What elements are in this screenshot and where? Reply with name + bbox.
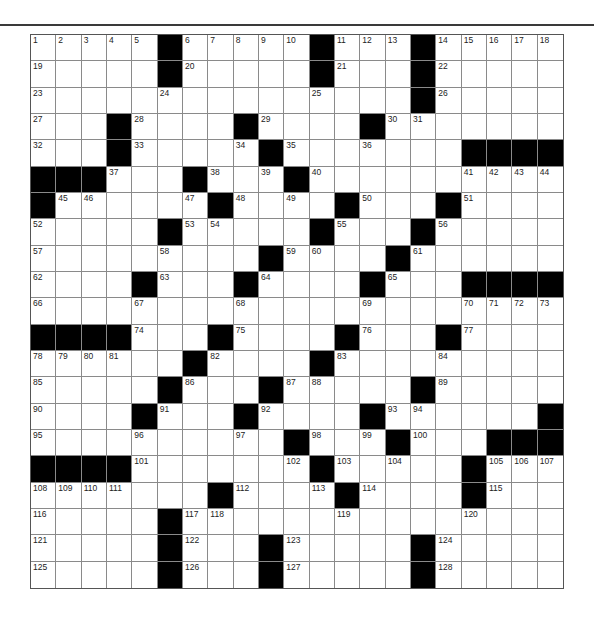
grid-cell[interactable] bbox=[183, 430, 208, 456]
grid-cell[interactable] bbox=[259, 351, 284, 377]
grid-cell[interactable] bbox=[208, 404, 233, 430]
grid-cell[interactable] bbox=[158, 114, 183, 140]
grid-cell[interactable] bbox=[512, 509, 537, 535]
grid-cell[interactable]: 10 bbox=[284, 35, 309, 61]
grid-cell[interactable] bbox=[462, 246, 487, 272]
grid-cell[interactable] bbox=[335, 377, 360, 403]
grid-cell[interactable]: 113 bbox=[310, 483, 335, 509]
grid-cell[interactable] bbox=[538, 535, 563, 561]
grid-cell[interactable] bbox=[335, 140, 360, 166]
grid-cell[interactable] bbox=[436, 114, 461, 140]
grid-cell[interactable] bbox=[386, 509, 411, 535]
grid-cell[interactable] bbox=[132, 193, 157, 219]
grid-cell[interactable] bbox=[107, 298, 132, 324]
grid-cell[interactable] bbox=[360, 88, 385, 114]
grid-cell[interactable] bbox=[360, 351, 385, 377]
grid-cell[interactable] bbox=[56, 535, 81, 561]
grid-cell[interactable] bbox=[411, 325, 436, 351]
grid-cell[interactable] bbox=[183, 456, 208, 482]
grid-cell[interactable] bbox=[487, 325, 512, 351]
grid-cell[interactable]: 21 bbox=[335, 61, 360, 87]
grid-cell[interactable] bbox=[487, 61, 512, 87]
grid-cell[interactable] bbox=[411, 483, 436, 509]
grid-cell[interactable] bbox=[56, 298, 81, 324]
grid-cell[interactable]: 37 bbox=[107, 167, 132, 193]
grid-cell[interactable] bbox=[411, 167, 436, 193]
grid-cell[interactable]: 120 bbox=[462, 509, 487, 535]
grid-cell[interactable]: 4 bbox=[107, 35, 132, 61]
grid-cell[interactable]: 127 bbox=[284, 562, 309, 588]
grid-cell[interactable] bbox=[158, 325, 183, 351]
grid-cell[interactable]: 82 bbox=[208, 351, 233, 377]
grid-cell[interactable] bbox=[462, 219, 487, 245]
grid-cell[interactable] bbox=[284, 483, 309, 509]
grid-cell[interactable]: 54 bbox=[208, 219, 233, 245]
grid-cell[interactable] bbox=[284, 61, 309, 87]
grid-cell[interactable]: 86 bbox=[183, 377, 208, 403]
grid-cell[interactable] bbox=[259, 219, 284, 245]
grid-cell[interactable] bbox=[132, 377, 157, 403]
grid-cell[interactable]: 39 bbox=[259, 167, 284, 193]
grid-cell[interactable]: 115 bbox=[487, 483, 512, 509]
grid-cell[interactable] bbox=[512, 351, 537, 377]
grid-cell[interactable] bbox=[512, 325, 537, 351]
grid-cell[interactable] bbox=[107, 377, 132, 403]
grid-cell[interactable]: 128 bbox=[436, 562, 461, 588]
grid-cell[interactable]: 42 bbox=[487, 167, 512, 193]
grid-cell[interactable] bbox=[284, 114, 309, 140]
grid-cell[interactable]: 72 bbox=[512, 298, 537, 324]
grid-cell[interactable] bbox=[82, 562, 107, 588]
grid-cell[interactable] bbox=[234, 509, 259, 535]
grid-cell[interactable] bbox=[487, 114, 512, 140]
grid-cell[interactable] bbox=[538, 483, 563, 509]
grid-cell[interactable]: 41 bbox=[462, 167, 487, 193]
grid-cell[interactable] bbox=[107, 246, 132, 272]
grid-cell[interactable] bbox=[284, 88, 309, 114]
grid-cell[interactable]: 67 bbox=[132, 298, 157, 324]
grid-cell[interactable] bbox=[360, 246, 385, 272]
grid-cell[interactable] bbox=[310, 298, 335, 324]
grid-cell[interactable] bbox=[310, 404, 335, 430]
grid-cell[interactable]: 48 bbox=[234, 193, 259, 219]
grid-cell[interactable] bbox=[335, 430, 360, 456]
grid-cell[interactable] bbox=[386, 219, 411, 245]
grid-cell[interactable] bbox=[158, 193, 183, 219]
grid-cell[interactable] bbox=[462, 404, 487, 430]
grid-cell[interactable] bbox=[56, 509, 81, 535]
grid-cell[interactable]: 29 bbox=[259, 114, 284, 140]
grid-cell[interactable]: 70 bbox=[462, 298, 487, 324]
grid-cell[interactable]: 97 bbox=[234, 430, 259, 456]
grid-cell[interactable] bbox=[310, 509, 335, 535]
grid-cell[interactable] bbox=[487, 509, 512, 535]
grid-cell[interactable]: 43 bbox=[512, 167, 537, 193]
grid-cell[interactable]: 60 bbox=[310, 246, 335, 272]
grid-cell[interactable] bbox=[208, 114, 233, 140]
grid-cell[interactable]: 106 bbox=[512, 456, 537, 482]
grid-cell[interactable]: 13 bbox=[386, 35, 411, 61]
grid-cell[interactable] bbox=[234, 535, 259, 561]
grid-cell[interactable] bbox=[538, 219, 563, 245]
grid-cell[interactable] bbox=[462, 88, 487, 114]
grid-cell[interactable]: 104 bbox=[386, 456, 411, 482]
grid-cell[interactable] bbox=[56, 562, 81, 588]
grid-cell[interactable] bbox=[183, 404, 208, 430]
grid-cell[interactable] bbox=[487, 219, 512, 245]
grid-cell[interactable]: 1 bbox=[31, 35, 56, 61]
grid-cell[interactable] bbox=[512, 193, 537, 219]
grid-cell[interactable]: 31 bbox=[411, 114, 436, 140]
grid-cell[interactable]: 92 bbox=[259, 404, 284, 430]
grid-cell[interactable]: 3 bbox=[82, 35, 107, 61]
grid-cell[interactable]: 114 bbox=[360, 483, 385, 509]
grid-cell[interactable]: 47 bbox=[183, 193, 208, 219]
grid-cell[interactable] bbox=[259, 193, 284, 219]
grid-cell[interactable] bbox=[436, 298, 461, 324]
grid-cell[interactable]: 33 bbox=[132, 140, 157, 166]
grid-cell[interactable]: 36 bbox=[360, 140, 385, 166]
grid-cell[interactable] bbox=[132, 167, 157, 193]
grid-cell[interactable] bbox=[436, 509, 461, 535]
grid-cell[interactable] bbox=[512, 61, 537, 87]
grid-cell[interactable]: 58 bbox=[158, 246, 183, 272]
grid-cell[interactable]: 62 bbox=[31, 272, 56, 298]
grid-cell[interactable] bbox=[386, 377, 411, 403]
grid-cell[interactable] bbox=[538, 114, 563, 140]
